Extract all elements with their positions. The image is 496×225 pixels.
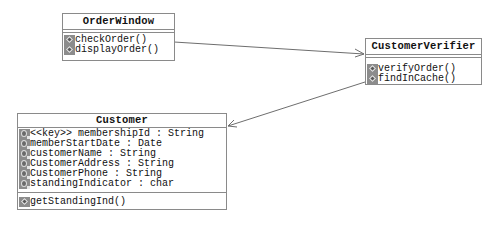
method-row[interactable]: getStandingInd() — [18, 197, 226, 207]
association-orderwindow-to-customerverifier[interactable] — [174, 42, 364, 54]
method-icon — [64, 45, 75, 55]
class-order-window[interactable]: OrderWindow checkOrder() displayOrder() — [62, 13, 175, 61]
class-name: CustomerVerifier — [366, 39, 481, 55]
attribute-label: standingIndicator : char — [30, 179, 174, 189]
method-label: findInCache() — [378, 74, 456, 84]
class-customer-verifier[interactable]: CustomerVerifier verifyOrder() findInCac… — [365, 38, 482, 85]
methods-compartment: checkOrder() displayOrder() — [63, 33, 174, 56]
method-icon — [367, 64, 378, 74]
method-row[interactable]: displayOrder() — [63, 45, 174, 55]
arrowhead-customerverifier — [355, 49, 364, 57]
method-label: getStandingInd() — [30, 197, 126, 207]
attribute-icon — [19, 139, 30, 149]
methods-compartment: verifyOrder() findInCache() — [366, 58, 481, 85]
attributes-compartment: <<key>> membershipId : String memberStar… — [18, 128, 226, 192]
method-row[interactable]: findInCache() — [366, 74, 481, 84]
association-customerverifier-to-customer[interactable] — [228, 82, 365, 126]
class-name: Customer — [18, 114, 226, 128]
class-customer[interactable]: Customer <<key>> membershipId : String m… — [17, 113, 227, 210]
method-icon — [19, 197, 30, 207]
attribute-icon — [19, 129, 30, 139]
class-name: OrderWindow — [63, 14, 174, 30]
attribute-row[interactable]: standingIndicator : char — [18, 179, 226, 189]
method-icon — [64, 35, 75, 45]
attribute-icon — [19, 169, 30, 179]
attribute-icon — [19, 179, 30, 189]
attribute-icon — [19, 149, 30, 159]
attribute-icon — [19, 159, 30, 169]
method-label: displayOrder() — [75, 45, 159, 55]
method-icon — [367, 74, 378, 84]
methods-compartment: getStandingInd() — [18, 192, 226, 208]
